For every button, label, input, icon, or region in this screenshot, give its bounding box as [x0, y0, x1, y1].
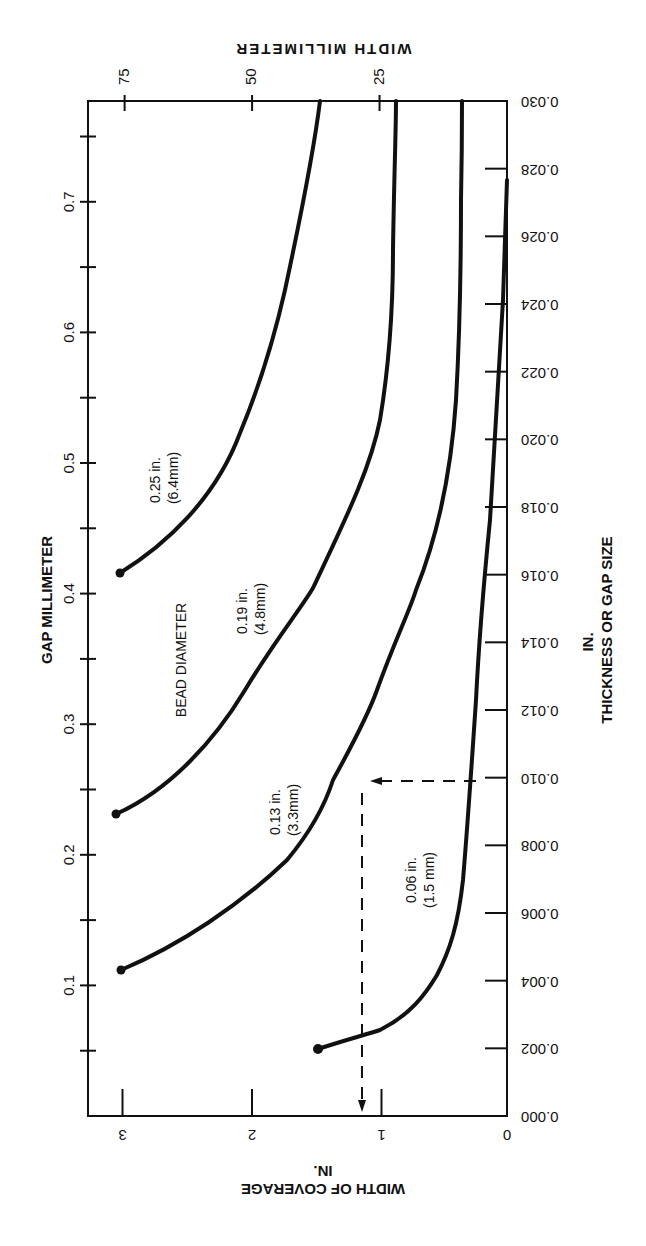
tick-label: 3	[118, 1127, 126, 1144]
tick-label: 0.018	[521, 500, 559, 517]
bead-coverage-chart: 0.0000.0020.0040.0060.0080.0100.0120.014…	[0, 0, 646, 1246]
arrow-left-icon	[370, 777, 382, 785]
curve-label-0.25-line2: (6.4mm)	[165, 452, 181, 504]
tick-label: 0.008	[521, 838, 559, 855]
curve-label-0.13-line1: 0.13 in.	[267, 789, 283, 835]
curve-bead-0.06in	[318, 180, 507, 1049]
tick-label: 0.028	[521, 162, 559, 179]
tick-label: 0.5	[60, 453, 77, 474]
gap-size-unit: IN.	[579, 632, 596, 651]
curve-label-0.06-line1: 0.06 in.	[403, 857, 419, 903]
curve-start-dot-0.13in	[117, 966, 126, 975]
gap-inch-axis: 0.0000.0020.0040.0060.0080.0100.0120.014…	[485, 94, 559, 1126]
curve-start-dot-0.25in	[116, 569, 125, 578]
tick-label: 0.004	[521, 974, 559, 991]
tick-label: 0.000	[521, 1109, 559, 1126]
curve-start-dot-0.19in	[112, 810, 121, 819]
width-coverage-title: WIDTH OF COVERAGE	[241, 1181, 405, 1198]
tick-label: 0.012	[521, 703, 559, 720]
tick-label: 1	[377, 1127, 385, 1144]
tick-label: 0	[503, 1127, 511, 1144]
tick-label: 0.1	[60, 975, 77, 996]
gap-millimeter-axis: 0.10.20.30.40.50.60.7	[60, 137, 96, 1051]
curve-label-0.06-line2: (1.5 mm)	[421, 852, 437, 908]
tick-label: 0.4	[60, 583, 77, 604]
tick-label: 25	[370, 68, 387, 85]
tick-label: 0.020	[521, 432, 559, 449]
tick-label: 50	[242, 68, 259, 85]
tick-label: 0.3	[60, 714, 77, 735]
tick-label: 0.026	[521, 229, 559, 246]
tick-label: 0.002	[521, 1041, 559, 1058]
tick-label: 75	[115, 68, 132, 85]
bead-diameter-label: BEAD DIAMETER	[173, 603, 189, 717]
width-millimeter-axis: 255075	[115, 68, 387, 111]
curve-start-dot-0.06in	[313, 1044, 323, 1054]
tick-label: 0.030	[521, 94, 559, 111]
tick-label: 0.016	[521, 568, 559, 585]
tick-label: 0.2	[60, 844, 77, 865]
tick-label: 0.014	[521, 635, 559, 652]
arrow-down-icon	[358, 1100, 366, 1112]
tick-label: 2	[248, 1127, 256, 1144]
tick-label: 0.7	[60, 191, 77, 212]
tick-label: 0.024	[521, 297, 559, 314]
curve-label-0.13-line2: (3.3mm)	[285, 784, 301, 836]
gap-size-title: THICKNESS OR GAP SIZE	[598, 536, 615, 723]
width-millimeter-title: WIDTH MILLIMETER	[235, 41, 412, 58]
curve-label-0.25-line1: 0.25 in.	[147, 457, 163, 503]
tick-label: 0.022	[521, 365, 559, 382]
curve-label-0.19-line2: (4.8mm)	[252, 583, 268, 635]
curve-label-0.19-line1: 0.19 in.	[234, 588, 250, 634]
tick-label: 0.6	[60, 322, 77, 343]
gap-millimeter-title: GAP MILLIMETER	[38, 536, 55, 664]
tick-label: 0.006	[521, 906, 559, 923]
tick-label: 0.010	[521, 771, 559, 788]
width-coverage-unit: IN.	[313, 1163, 332, 1180]
